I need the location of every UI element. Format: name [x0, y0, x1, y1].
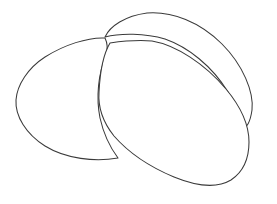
drawing-canvas: Three overlapping rounded shapes line dr… — [0, 0, 277, 204]
line-drawing-svg: Three overlapping rounded shapes line dr… — [0, 0, 277, 204]
